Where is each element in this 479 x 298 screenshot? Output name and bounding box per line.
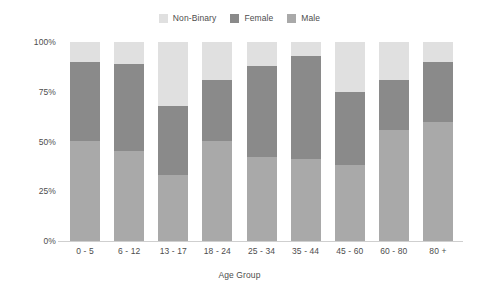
bar-segment-female[interactable] — [202, 80, 232, 142]
bar-segment-female[interactable] — [423, 62, 453, 122]
plot-area — [63, 42, 460, 241]
bar-segment-non-binary[interactable] — [247, 42, 277, 66]
legend-item-female[interactable]: Female — [230, 13, 273, 23]
bar-segment-non-binary[interactable] — [379, 42, 409, 80]
bar-segment-non-binary[interactable] — [291, 42, 321, 56]
bar-segment-female[interactable] — [247, 66, 277, 158]
bar-35-44[interactable] — [291, 42, 321, 241]
bar-segment-male[interactable] — [247, 157, 277, 241]
legend-label: Non-Binary — [173, 13, 217, 23]
x-axis: 0 - 56 - 1213 - 1718 - 2425 - 3435 - 444… — [63, 246, 460, 260]
legend-swatch-icon — [287, 14, 296, 23]
bar-segment-non-binary[interactable] — [202, 42, 232, 80]
bar-6-12[interactable] — [114, 42, 144, 241]
legend-label: Female — [244, 13, 273, 23]
chart-legend: Non-BinaryFemaleMale — [0, 13, 479, 23]
bar-segment-female[interactable] — [158, 106, 188, 176]
legend-item-non-binary[interactable]: Non-Binary — [159, 13, 217, 23]
bar-segment-male[interactable] — [423, 122, 453, 241]
bar-segment-non-binary[interactable] — [158, 42, 188, 106]
bar-60-80[interactable] — [379, 42, 409, 241]
bar-segment-non-binary[interactable] — [70, 42, 100, 62]
bar-segment-female[interactable] — [335, 92, 365, 166]
y-axis: 0%25%50%75%100% — [0, 42, 56, 241]
bar-segment-male[interactable] — [158, 175, 188, 241]
y-axis-tick-label: 100% — [0, 37, 56, 47]
bar-segment-male[interactable] — [379, 130, 409, 241]
bar-13-17[interactable] — [158, 42, 188, 241]
bar-segment-female[interactable] — [70, 62, 100, 142]
bar-80plus[interactable] — [423, 42, 453, 241]
x-axis-title: Age Group — [0, 270, 479, 280]
bar-segment-female[interactable] — [291, 56, 321, 159]
legend-swatch-icon — [159, 14, 168, 23]
bar-segment-non-binary[interactable] — [335, 42, 365, 92]
legend-label: Male — [301, 13, 320, 23]
stacked-bar-chart: Non-BinaryFemaleMale 0%25%50%75%100% 0 -… — [0, 0, 479, 298]
bar-segment-male[interactable] — [291, 159, 321, 241]
y-axis-tick-label: 75% — [0, 87, 56, 97]
bar-segment-male[interactable] — [70, 141, 100, 241]
legend-swatch-icon — [230, 14, 239, 23]
bar-segment-male[interactable] — [335, 165, 365, 241]
bar-segment-male[interactable] — [114, 151, 144, 241]
bar-segment-non-binary[interactable] — [423, 42, 453, 62]
bar-18-24[interactable] — [202, 42, 232, 241]
y-axis-tick-label: 0% — [0, 236, 56, 246]
y-axis-tick-label: 50% — [0, 137, 56, 147]
x-axis-tick-label: 80 + — [411, 246, 465, 256]
y-axis-tick-label: 25% — [0, 186, 56, 196]
x-axis-line — [58, 241, 463, 242]
bar-25-34[interactable] — [247, 42, 277, 241]
bar-0-5[interactable] — [70, 42, 100, 241]
bar-45-60[interactable] — [335, 42, 365, 241]
bar-segment-male[interactable] — [202, 141, 232, 241]
bar-segment-female[interactable] — [379, 80, 409, 130]
bar-segment-non-binary[interactable] — [114, 42, 144, 64]
bar-segment-female[interactable] — [114, 64, 144, 152]
legend-item-male[interactable]: Male — [287, 13, 320, 23]
